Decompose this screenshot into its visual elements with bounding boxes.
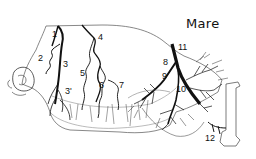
label-12: 12 [205,134,215,143]
right-intestine-segment [220,82,240,146]
right-lower-lobe [142,108,204,136]
label-1: 1 [52,30,57,39]
diagram-title: Mare [186,17,219,30]
label-3-prime: 3' [65,87,72,96]
artery-2 [46,44,60,74]
label-4: 4 [98,33,103,42]
label-2: 2 [38,54,43,63]
label-10: 10 [176,85,186,94]
label-9: 9 [162,72,167,81]
artery-7 [108,80,119,110]
label-8: 8 [163,58,168,67]
organ-outline [22,25,222,133]
lower-rim [50,112,170,128]
label-5: 5 [80,69,85,78]
label-11: 11 [178,43,187,52]
arterial-supply-diagram: Mare 1 2 3 3' 4 5 6 7 8 9 10 11 12 [0,0,256,159]
artery-9 [142,62,176,100]
label-7: 7 [119,81,124,90]
label-3: 3 [63,60,68,69]
artery-10 [168,70,179,124]
label-6: 6 [99,81,104,90]
